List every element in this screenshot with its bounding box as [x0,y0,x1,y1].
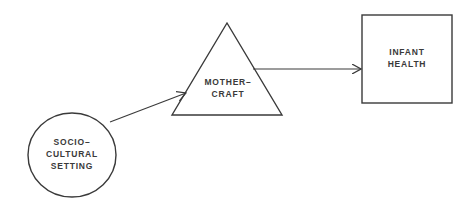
mothercraft-line-2: CRAFT [192,88,264,100]
mothercraft-line-1: MOTHER– [192,76,264,88]
infant-health-label: INFANT HEALTH [367,46,447,70]
infant-health-line-1: INFANT [367,46,447,58]
infant-health-line-2: HEALTH [367,58,447,70]
socio-cultural-line-1: SOCIO– [32,136,112,148]
socio-cultural-setting-label: SOCIO– CULTURAL SETTING [32,136,112,172]
socio-cultural-line-2: CULTURAL [32,148,112,160]
socio-cultural-line-3: SETTING [32,160,112,172]
arrow-socio-to-mothercraft [110,93,186,122]
mothercraft-label: MOTHER– CRAFT [192,76,264,100]
